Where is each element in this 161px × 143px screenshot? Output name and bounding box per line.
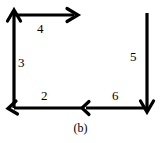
edge-label-6: 6 (112, 89, 119, 102)
figure-container: 4 3 2 6 5 (b) (0, 0, 161, 143)
edge-5-path (141, 13, 154, 112)
edge-4-path (13, 9, 78, 22)
edge-label-3: 3 (18, 56, 25, 69)
edge-6-path (82, 102, 148, 115)
figure-caption: (b) (0, 122, 161, 134)
edge-label-5: 5 (130, 50, 137, 63)
edge-label-2: 2 (41, 89, 48, 102)
edge-label-4: 4 (37, 22, 44, 35)
